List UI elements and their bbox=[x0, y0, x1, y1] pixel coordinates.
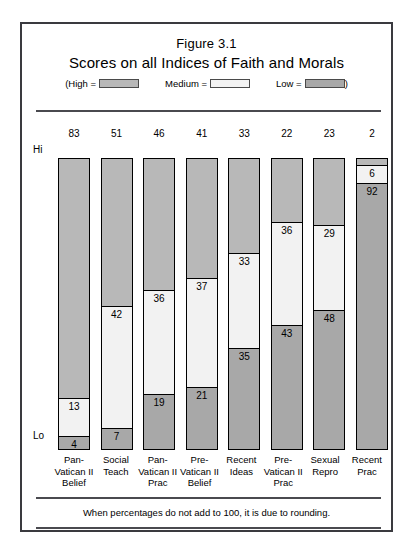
axis-label-low: Lo bbox=[33, 430, 44, 441]
bar-column: 33333335 bbox=[228, 128, 260, 450]
bar-top-value: 23 bbox=[313, 128, 345, 140]
bar-segment-high: 23 bbox=[314, 159, 344, 225]
bar-top-value: 51 bbox=[101, 128, 133, 140]
bar-segment-value: 35 bbox=[239, 349, 250, 362]
bar-segment-high: 22 bbox=[272, 159, 302, 222]
category-label: SocialTeach bbox=[95, 454, 137, 489]
bar-segment-medium: 37 bbox=[187, 278, 217, 387]
bar-segment-value: 36 bbox=[281, 223, 292, 236]
bar-stack: 413721 bbox=[186, 158, 218, 450]
footer-divider-bottom bbox=[36, 527, 381, 529]
bar-stack: 232948 bbox=[313, 158, 345, 450]
bar-segment-medium: 29 bbox=[314, 225, 344, 310]
bar-column: 8383134 bbox=[58, 128, 90, 450]
figure-frame: Figure 3.1 Scores on all Indices of Fait… bbox=[20, 22, 393, 532]
bar-segment-value: 19 bbox=[154, 395, 165, 408]
bar-segment-value: 43 bbox=[281, 326, 292, 339]
bar-segment-high: 51 bbox=[102, 159, 132, 306]
category-label: RecentIdeas bbox=[220, 454, 262, 489]
bar-segment-high: 41 bbox=[187, 159, 217, 278]
bar-top-value: 22 bbox=[271, 128, 303, 140]
category-label: RecentPrac bbox=[346, 454, 388, 489]
bar-segment-value: 6 bbox=[369, 166, 375, 179]
category-label: SexualRepro bbox=[304, 454, 346, 489]
bar-column: 41413721 bbox=[186, 128, 218, 450]
bar-segment-value: 13 bbox=[68, 399, 79, 412]
bar-stack: 333335 bbox=[228, 158, 260, 450]
bar-column: 46463619 bbox=[143, 128, 175, 450]
bar-segment-low: 92 bbox=[357, 183, 387, 449]
bar-column: 22692 bbox=[356, 128, 388, 450]
bar-segment-high: 46 bbox=[144, 159, 174, 290]
footer-divider-top bbox=[36, 497, 381, 499]
category-label: Pan-Vatican IIBelief bbox=[53, 454, 95, 489]
bar-segment-value: 7 bbox=[114, 429, 120, 442]
bar-group: 8383134515142746463619414137213333333522… bbox=[58, 128, 388, 450]
bar-column: 22223643 bbox=[271, 128, 303, 450]
bar-segment-low: 4 bbox=[59, 436, 89, 449]
bar-segment-value: 36 bbox=[154, 291, 165, 304]
bar-top-value: 33 bbox=[228, 128, 260, 140]
bar-top-value: 41 bbox=[186, 128, 218, 140]
bar-segment-medium: 36 bbox=[144, 290, 174, 394]
bar-segment-value: 42 bbox=[111, 307, 122, 320]
bar-segment-low: 35 bbox=[229, 348, 259, 449]
bar-stack: 83134 bbox=[58, 158, 90, 450]
bar-segment-value: 48 bbox=[324, 311, 335, 324]
bar-segment-medium: 13 bbox=[59, 398, 89, 436]
axis-label-high: Hi bbox=[33, 144, 42, 155]
bar-segment-medium: 6 bbox=[357, 165, 387, 183]
bar-segment-low: 48 bbox=[314, 310, 344, 449]
bar-stack: 223643 bbox=[271, 158, 303, 450]
footnote: When percentages do not add to 100, it i… bbox=[22, 507, 391, 518]
bar-segment-value: 92 bbox=[366, 184, 377, 197]
bar-segment-low: 7 bbox=[102, 428, 132, 449]
bar-segment-value: 21 bbox=[196, 388, 207, 401]
bar-top-value: 83 bbox=[58, 128, 90, 140]
category-label: Pre-Vatican IIPrac bbox=[262, 454, 304, 489]
bar-column: 23232948 bbox=[313, 128, 345, 450]
bar-segment-medium: 36 bbox=[272, 222, 302, 326]
bar-top-value: 46 bbox=[143, 128, 175, 140]
plot-area: Hi Lo 8383134515142746463619414137213333… bbox=[22, 24, 391, 530]
bar-segment-high: 33 bbox=[229, 159, 259, 253]
bar-segment-high: 83 bbox=[59, 159, 89, 398]
bar-top-value: 2 bbox=[356, 128, 388, 140]
bar-segment-value: 33 bbox=[239, 254, 250, 267]
category-label: Pre-Vatican IIBelief bbox=[179, 454, 221, 489]
bar-stack: 2692 bbox=[356, 158, 388, 450]
bar-segment-medium: 42 bbox=[102, 306, 132, 428]
bar-segment-low: 19 bbox=[144, 394, 174, 449]
bar-column: 5151427 bbox=[101, 128, 133, 450]
bar-segment-value: 4 bbox=[71, 437, 77, 449]
category-label-group: Pan-Vatican IIBeliefSocialTeachPan-Vatic… bbox=[58, 454, 388, 489]
bar-segment-low: 43 bbox=[272, 325, 302, 449]
bar-segment-value: 37 bbox=[196, 279, 207, 292]
bar-stack: 463619 bbox=[143, 158, 175, 450]
bar-segment-low: 21 bbox=[187, 387, 217, 449]
bar-segment-medium: 33 bbox=[229, 253, 259, 348]
category-label: Pan-Vatican IIPrac bbox=[137, 454, 179, 489]
bar-segment-value: 29 bbox=[324, 226, 335, 239]
bar-stack: 51427 bbox=[101, 158, 133, 450]
